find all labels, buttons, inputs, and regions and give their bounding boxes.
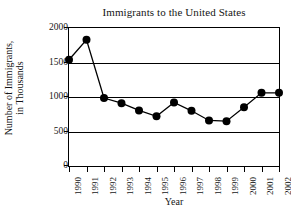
x-tick-label-1993: 1993	[125, 177, 135, 195]
y-tick-label-1000: 1000	[34, 91, 68, 101]
x-tick-label-1990: 1990	[73, 177, 83, 195]
x-tick-label-2000: 2000	[248, 177, 258, 195]
x-tick-label-1998: 1998	[213, 177, 223, 195]
y-axis-title-line2: in Thousands	[14, 12, 25, 164]
x-tick-label-1997: 1997	[195, 177, 205, 195]
data-point-1994	[135, 106, 143, 114]
y-tick-label-2000: 2000	[34, 22, 68, 32]
x-tick-label-1995: 1995	[160, 177, 170, 195]
x-tick-label-1994: 1994	[143, 177, 153, 195]
x-tick-label-2001: 2001	[265, 177, 275, 195]
data-point-1996	[170, 99, 178, 107]
y-tick-label-1500: 1500	[34, 57, 68, 67]
x-tick-label-2002: 2002	[283, 177, 292, 195]
data-point-1995	[153, 112, 161, 120]
y-tick-label-0: 0	[34, 160, 68, 170]
data-point-1991	[83, 36, 91, 44]
x-tick-label-1999: 1999	[230, 177, 240, 195]
y-axis-title-line1: Number of Immigrants,	[3, 41, 14, 136]
y-axis: 0500100015002000	[30, 27, 68, 167]
gridline-500	[69, 132, 279, 133]
data-point-1998	[205, 116, 213, 124]
y-tick-label-500: 500	[34, 126, 68, 136]
x-tick-label-1991: 1991	[90, 177, 100, 195]
data-point-1993	[118, 99, 126, 107]
data-point-1999	[223, 117, 231, 125]
x-axis-tick-labels: 1990199119921993199419951996199719981999…	[68, 172, 280, 198]
gridline-1500	[69, 63, 279, 64]
data-point-2000	[240, 103, 248, 111]
x-tick-label-1996: 1996	[178, 177, 188, 195]
y-axis-title: Number of Immigrants, in Thousands	[3, 12, 25, 164]
data-point-1992	[100, 94, 108, 102]
chart-title: Immigrants to the United States	[60, 6, 288, 18]
data-point-1997	[188, 107, 196, 115]
plot-area	[68, 27, 280, 167]
x-tick-label-1992: 1992	[108, 177, 118, 195]
data-point-2001	[258, 89, 266, 97]
data-point-2002	[275, 89, 283, 97]
gridline-1000	[69, 97, 279, 98]
x-axis-title: Year	[68, 196, 280, 207]
chart-figure: Immigrants to the United States Number o…	[0, 0, 291, 213]
